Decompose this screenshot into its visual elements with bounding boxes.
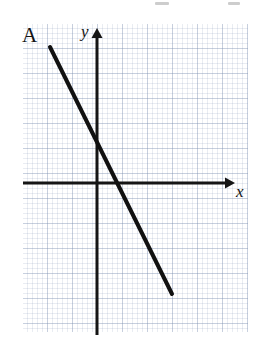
graph-figure: A y x [0, 0, 264, 339]
y-axis-arrow-icon [92, 28, 103, 38]
x-axis-arrow-icon [225, 178, 235, 189]
plot-line-a [50, 47, 172, 294]
axes-and-plot [0, 0, 264, 339]
y-axis-label: y [81, 23, 89, 40]
line-label-a: A [22, 25, 37, 46]
x-axis [23, 178, 235, 189]
x-axis-label: x [236, 183, 244, 200]
